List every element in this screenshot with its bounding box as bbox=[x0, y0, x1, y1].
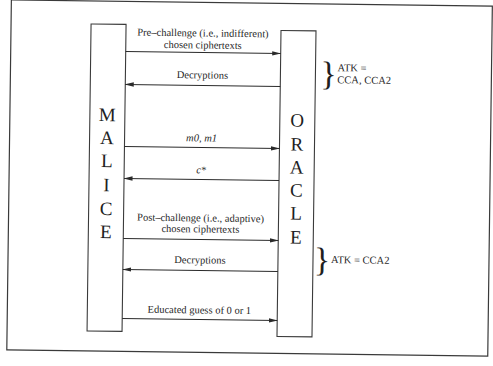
diagram-group: M A L I C E O R A C L E Pre–challenge (i… bbox=[7, 0, 493, 356]
message-label: Educated guess of 0 or 1 bbox=[148, 304, 252, 316]
malice-letter: A bbox=[100, 127, 114, 148]
oracle-letter: A bbox=[290, 157, 304, 178]
message-pre-challenge: Pre–challenge (i.e., indifferent) chosen… bbox=[126, 26, 281, 53]
message-label: Decryptions bbox=[177, 69, 228, 81]
right-brace-icon: } bbox=[314, 241, 331, 278]
annotation-label: ATK = CCA2 bbox=[331, 254, 390, 266]
message-educated-guess: Educated guess of 0 or 1 bbox=[122, 303, 277, 320]
arrow-left-icon bbox=[124, 178, 279, 180]
message-decryptions-1: Decryptions bbox=[125, 68, 280, 86]
message-decryptions-2: Decryptions bbox=[123, 253, 278, 271]
malice-letter: C bbox=[100, 198, 113, 219]
message-m0-m1: m0, m1 bbox=[124, 131, 279, 148]
diagram-canvas: M A L I C E O R A C L E Pre–challenge (i… bbox=[0, 0, 493, 366]
message-label: m0, m1 bbox=[186, 132, 217, 143]
message-label: Decryptions bbox=[174, 254, 225, 266]
annotation-label: ATK = bbox=[337, 62, 366, 73]
arrow-right-icon bbox=[122, 318, 277, 320]
oracle-letter: C bbox=[290, 180, 303, 201]
message-c-star: c* bbox=[124, 163, 279, 180]
arrow-left-icon bbox=[125, 84, 280, 86]
arrow-right-icon bbox=[124, 146, 279, 148]
oracle-letter: E bbox=[290, 227, 302, 248]
message-label: chosen ciphertexts bbox=[164, 39, 242, 51]
oracle-letter: O bbox=[290, 110, 304, 131]
sequence-diagram: M A L I C E O R A C L E Pre–challenge (i… bbox=[0, 0, 493, 366]
annotation-atk-post: } ATK = CCA2 bbox=[314, 241, 390, 279]
arrow-right-icon bbox=[123, 238, 278, 240]
oracle-letter: L bbox=[290, 203, 302, 224]
arrow-left-icon bbox=[123, 269, 278, 271]
annotation-label: CCA, CCA2 bbox=[337, 74, 391, 86]
arrow-right-icon bbox=[126, 51, 281, 53]
malice-letter: L bbox=[101, 150, 113, 171]
message-label: chosen ciphertexts bbox=[161, 223, 239, 235]
malice-letter: E bbox=[100, 221, 112, 242]
malice-letter: M bbox=[99, 104, 116, 125]
message-label: c* bbox=[196, 164, 207, 175]
malice-letter: I bbox=[103, 174, 110, 195]
annotation-atk-pre: } ATK = CCA, CCA2 bbox=[320, 55, 391, 93]
message-post-challenge: Post–challenge (i.e., adaptive) chosen c… bbox=[123, 211, 278, 240]
right-brace-icon: } bbox=[320, 55, 337, 92]
oracle-letter: R bbox=[291, 134, 304, 155]
message-label: Pre–challenge (i.e., indifferent) bbox=[137, 27, 269, 41]
